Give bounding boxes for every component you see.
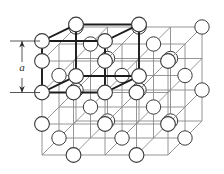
lattice-atom [129,148,144,163]
lattice-atom [161,117,176,132]
lattice-atom [178,131,192,145]
lattice-atom [35,54,50,69]
lattice-constant-dimension: a [10,41,40,93]
lattice-atom [146,100,160,114]
lattice-atom [115,131,129,145]
lattice-atom [146,37,160,51]
lattice-atom [178,68,192,82]
unit-cell-corner-atom [132,69,147,84]
lattice-atom [83,100,97,114]
lattice-atom [98,54,113,69]
unit-cell-corner-atom [98,34,113,49]
lattice-atom [52,68,66,82]
lattice-constant-label: a [19,61,25,73]
lattice-atom [129,85,144,100]
lattice-atom [52,131,66,145]
lattice-atom [83,37,97,51]
unit-cell-corner-atom [132,17,147,32]
lattice-atom [161,54,176,69]
lattice-atom [195,83,209,97]
lattice-atom [35,117,50,132]
lattice-atom [195,20,209,34]
crystal-lattice-figure: a [0,0,224,174]
unit-cell-corner-atom [69,17,84,32]
unit-cell-corner-atom [98,85,113,100]
lattice-atom [66,85,81,100]
lattice-diagram-svg: a [0,0,224,174]
lattice-atom [98,117,113,132]
unit-cell-corner-atom [69,69,84,84]
lattice-atom [66,148,81,163]
